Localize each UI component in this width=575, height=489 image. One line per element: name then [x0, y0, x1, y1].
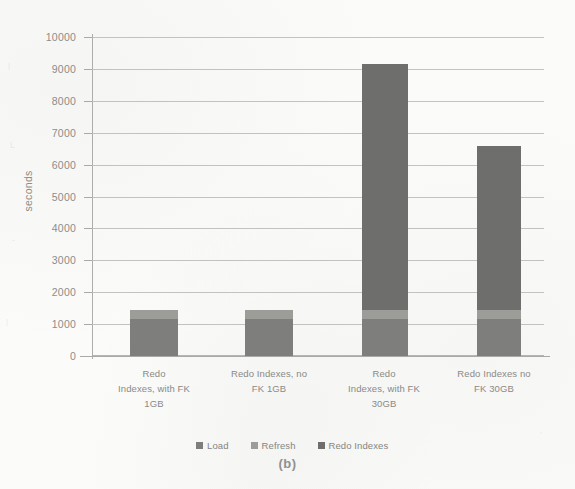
- bar-segment-refresh: [130, 310, 178, 320]
- bar-segment-refresh: [245, 310, 293, 320]
- x-tick-label-3-line-1: Redo Indexes no: [440, 366, 548, 381]
- y-axis-tick-labels: 10000 9000 8000 7000 6000 5000 4000 3000…: [14, 0, 76, 489]
- bar-chart-figure: seconds 10000 9000 8000 7000 6000 5000 4…: [0, 0, 575, 489]
- y-tick-5000: 5000: [14, 192, 76, 203]
- x-tick-label-3: Redo Indexes no FK 30GB: [440, 366, 548, 396]
- chart-legend: Load Refresh Redo Indexes: [196, 440, 388, 451]
- bar-segment-load: [362, 319, 408, 356]
- y-tick-2000: 2000: [14, 287, 76, 298]
- bar-segment-load: [477, 319, 521, 356]
- legend-label-load: Load: [207, 440, 229, 451]
- x-tick-label-0-line-3: 1GB: [96, 396, 212, 411]
- gridline-8000: [92, 101, 544, 102]
- bar-segment-refresh: [477, 310, 521, 320]
- figure-caption: (b): [0, 456, 575, 471]
- x-tick-label-0: Redo Indexes, with FK 1GB: [96, 366, 212, 411]
- bar-redo-indexes-no-fk-30gb[interactable]: [477, 146, 521, 356]
- x-tick-label-2-line-1: Redo: [326, 366, 442, 381]
- gridline-10000: [92, 37, 544, 38]
- x-tick-label-2: Redo Indexes, with FK 30GB: [326, 366, 442, 411]
- x-tick-label-1: Redo Indexes, no FK 1GB: [212, 366, 326, 396]
- plot-area: [92, 37, 544, 356]
- bar-redo-indexes-with-fk-30gb[interactable]: [362, 64, 408, 356]
- bar-segment-refresh: [362, 310, 408, 320]
- x-tick-label-2-line-3: 30GB: [326, 396, 442, 411]
- legend-item-refresh[interactable]: Refresh: [251, 440, 296, 451]
- bar-segment-load: [245, 319, 293, 356]
- x-axis-tick-labels: Redo Indexes, with FK 1GB Redo Indexes, …: [92, 366, 544, 424]
- x-tick-label-2-line-2: Indexes, with FK: [326, 381, 442, 396]
- x-tick-label-1-line-2: FK 1GB: [212, 381, 326, 396]
- y-tick-7000: 7000: [14, 128, 76, 139]
- x-tick-label-0-line-1: Redo: [96, 366, 212, 381]
- bar-segment-redo-indexes: [477, 146, 521, 309]
- x-tick-label-3-line-2: FK 30GB: [440, 381, 548, 396]
- scan-artifact: l: [8, 62, 11, 72]
- legend-swatch-refresh-icon: [251, 442, 258, 449]
- bar-segment-redo-indexes: [362, 64, 408, 310]
- legend-label-redo-indexes: Redo Indexes: [329, 440, 389, 451]
- y-tick-9000: 9000: [14, 64, 76, 75]
- bar-redo-indexes-with-fk-1gb[interactable]: [130, 310, 178, 356]
- x-tick-label-1-line-1: Redo Indexes, no: [212, 366, 326, 381]
- x-tick-label-0-line-2: Indexes, with FK: [96, 381, 212, 396]
- legend-swatch-load-icon: [196, 442, 203, 449]
- legend-item-load[interactable]: Load: [196, 440, 229, 451]
- bar-redo-indexes-no-fk-1gb[interactable]: [245, 310, 293, 356]
- legend-item-redo-indexes[interactable]: Redo Indexes: [318, 440, 389, 451]
- y-tick-6000: 6000: [14, 160, 76, 171]
- scan-artifact: ': [540, 430, 543, 440]
- gridline-7000: [92, 133, 544, 134]
- y-tick-10000: 10000: [14, 32, 76, 43]
- scan-artifact: l: [6, 318, 9, 328]
- legend-label-refresh: Refresh: [262, 440, 296, 451]
- legend-swatch-redo-indexes-icon: [318, 442, 325, 449]
- y-tick-8000: 8000: [14, 96, 76, 107]
- bar-segment-load: [130, 319, 178, 356]
- y-tick-0: 0: [14, 351, 76, 362]
- y-tick-3000: 3000: [14, 255, 76, 266]
- y-tick-4000: 4000: [14, 223, 76, 234]
- gridline-9000: [92, 69, 544, 70]
- y-tick-1000: 1000: [14, 319, 76, 330]
- x-axis-line: [80, 356, 550, 357]
